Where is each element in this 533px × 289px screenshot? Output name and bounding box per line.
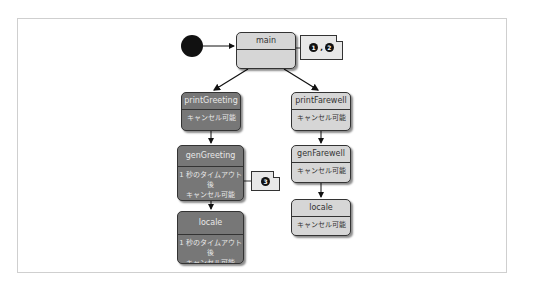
state-body: キャンセル可能 (182, 110, 240, 123)
state-name: genGreeting (178, 146, 243, 167)
callout-badge: 3 (261, 177, 270, 186)
state-name: locale (292, 200, 350, 217)
state-body: キャンセル可能 (292, 217, 350, 230)
state-body: 1 秒のタイムアウト後 キャンセル可能 (178, 167, 243, 200)
state-body (237, 50, 295, 53)
state-body: 1 秒のタイムアウト後 キャンセル可能 (178, 235, 243, 264)
body-line: 1 秒のタイムアウト後 (178, 238, 243, 258)
badge-separator: , (320, 44, 323, 52)
state-name: printFarewell (292, 93, 350, 110)
state-genFarewell[interactable]: genFarewell キャンセル可能 (291, 145, 351, 183)
body-line: 1 秒のタイムアウト後 (178, 170, 243, 190)
state-name: main (237, 33, 295, 50)
body-line: キャンセル可能 (178, 190, 243, 200)
state-body: キャンセル可能 (292, 163, 350, 176)
state-name: genFarewell (292, 146, 350, 163)
note-genGreeting: 3 (251, 171, 280, 191)
state-body: キャンセル可能 (292, 110, 350, 123)
state-printGreeting[interactable]: printGreeting キャンセル可能 (181, 92, 241, 131)
callout-badge: 2 (325, 43, 334, 52)
callout-badge: 1 (309, 43, 318, 52)
initial-state-dot (181, 35, 203, 57)
state-name: printGreeting (182, 93, 240, 110)
state-printFarewell[interactable]: printFarewell キャンセル可能 (291, 92, 351, 131)
state-locale-left[interactable]: locale 1 秒のタイムアウト後 キャンセル可能 (177, 211, 244, 264)
body-line: キャンセル可能 (178, 258, 243, 264)
state-name: locale (178, 212, 243, 235)
note-main: 1 , 2 (300, 35, 343, 60)
state-main[interactable]: main (236, 32, 296, 69)
state-locale-right[interactable]: locale キャンセル可能 (291, 199, 351, 236)
state-genGreeting[interactable]: genGreeting 1 秒のタイムアウト後 キャンセル可能 (177, 145, 244, 201)
